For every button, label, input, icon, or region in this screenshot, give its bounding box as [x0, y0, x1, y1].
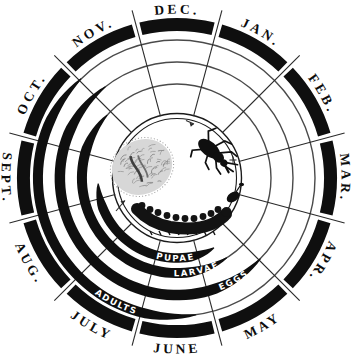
- larva-segment: [200, 213, 207, 220]
- larva-segment: [139, 202, 146, 209]
- larva-segment: [155, 209, 162, 216]
- larva-segment: [215, 206, 222, 213]
- larva-segment: [164, 212, 171, 219]
- month-label-sept: SEPT.: [0, 152, 15, 205]
- plus-mark: [230, 157, 237, 164]
- center-illustrations-layer: [100, 121, 247, 236]
- larva-segment: [173, 214, 180, 221]
- month-label-sept-text: SEPT.: [0, 152, 15, 205]
- larva-illustration: [137, 202, 232, 235]
- month-band-segment: [326, 142, 330, 214]
- month-band-segment: [141, 327, 213, 331]
- diagram-svg: DEC.JAN.FEB.MAR.APR.MAYJUNEJULYAUG.SEPT.…: [0, 0, 357, 358]
- month-band-segment: [23, 142, 27, 214]
- month-label-mar: MAR.: [337, 153, 354, 204]
- labels-layer: DEC.JAN.FEB.MAR.APR.MAYJUNEJULYAUG.SEPT.…: [0, 1, 354, 356]
- larva-segment: [147, 206, 154, 213]
- month-label-dec: DEC.: [154, 1, 201, 18]
- stage-label-pupae-text: PUPAE: [155, 251, 195, 264]
- month-label-mar-text: MAR.: [337, 153, 354, 204]
- larva-segment: [208, 210, 215, 217]
- larva-segment: [191, 215, 198, 222]
- month-label-june: JUNE: [153, 340, 202, 357]
- larva-segment: [182, 215, 189, 222]
- month-label-dec-text: DEC.: [154, 1, 201, 18]
- larva-leg: [213, 231, 215, 235]
- pupa-illustration: [225, 183, 244, 205]
- stage-label-pupae: PUPAE: [155, 251, 195, 264]
- pupa-fragment: [239, 183, 244, 187]
- lifecycle-diagram-figure: DEC.JAN.FEB.MAR.APR.MAYJUNEJULYAUG.SEPT.…: [0, 0, 357, 358]
- larva-head: [222, 207, 232, 217]
- pupa-stem: [236, 186, 240, 192]
- month-divider: [222, 223, 299, 300]
- month-label-june-text: JUNE: [153, 340, 202, 357]
- stage-label-eggs: EGGS: [217, 268, 250, 292]
- stage-label-eggs-text: EGGS: [217, 268, 250, 292]
- month-band-segment: [141, 24, 213, 28]
- month-divider: [222, 55, 299, 132]
